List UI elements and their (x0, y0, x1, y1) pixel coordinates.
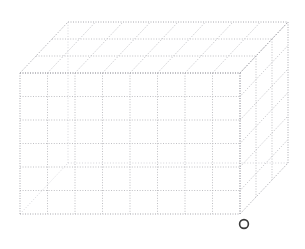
right-recede-row-1 (240, 46, 288, 97)
right-recede-row-0 (240, 22, 288, 73)
right-recede-row-2 (240, 69, 288, 120)
top-recede-col-2 (75, 22, 123, 73)
front-face-group (20, 73, 240, 214)
right-recede-row-5 (240, 140, 288, 191)
left-face-bottom-recede (20, 163, 68, 214)
top-recede-col-0 (20, 22, 68, 73)
cuboid-wireframe-svg (0, 0, 305, 249)
top-recede-col-1 (48, 22, 96, 73)
right-recede-row-6 (240, 163, 288, 214)
circle-marker-icon (240, 220, 249, 229)
right-face-group (240, 22, 288, 214)
top-recede-col-4 (130, 22, 178, 73)
right-recede-row-4 (240, 116, 288, 167)
top-recede-col-5 (158, 22, 206, 73)
figure-canvas (0, 0, 305, 249)
back-hidden-edges-group (20, 22, 288, 214)
top-recede-col-3 (103, 22, 151, 73)
top-recede-col-6 (185, 22, 233, 73)
right-recede-row-3 (240, 93, 288, 144)
right-face-receding-lines (240, 22, 288, 214)
right-face-vertical-lines (240, 22, 288, 214)
top-recede-col-7 (213, 22, 261, 73)
